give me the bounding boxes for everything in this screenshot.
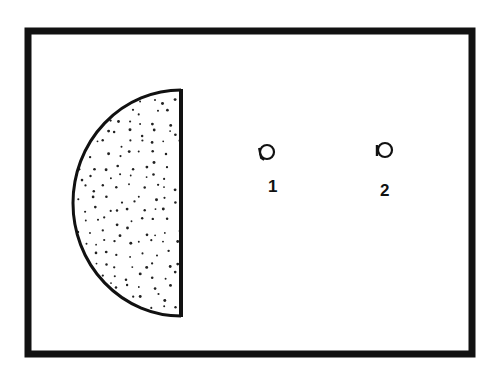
- half-disk: [73, 89, 183, 317]
- marker-2-circle: [378, 143, 392, 157]
- marker-1: 1: [259, 145, 277, 196]
- diagram-canvas: 1 2: [0, 0, 501, 380]
- marker-2-label: 2: [380, 181, 389, 200]
- marker-1-label: 1: [268, 177, 277, 196]
- half-disk-fill: [73, 90, 181, 316]
- marker-1-circle: [260, 145, 274, 159]
- marker-2: 2: [377, 143, 392, 200]
